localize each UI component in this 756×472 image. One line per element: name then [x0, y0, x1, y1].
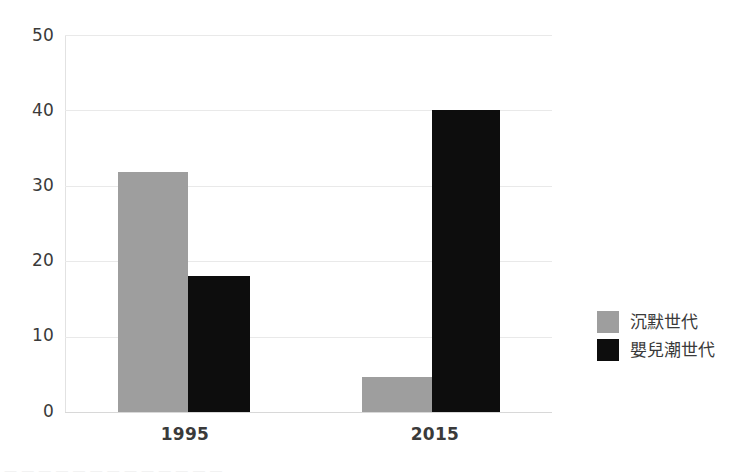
chart-legend: 沉默世代 嬰兒潮世代 [597, 308, 752, 364]
legend-swatch-silent-icon [597, 311, 619, 333]
y-tick-label-30: 30 [8, 177, 54, 194]
y-tick-label-40: 40 [8, 102, 54, 119]
y-tick-label-50: 50 [8, 27, 54, 44]
bar-1995-silent-generation [118, 172, 188, 412]
legend-item-silent-generation: 沉默世代 [597, 308, 752, 335]
x-tick-label-1995: 1995 [125, 424, 245, 444]
y-tick-label-20: 20 [8, 252, 54, 269]
y-tick-label-0: 0 [8, 403, 54, 420]
clipped-footer-label: — — — — — — — — — — — — — [0, 463, 756, 472]
gridline-baseline-0 [65, 412, 552, 413]
bar-1995-baby-boomer [188, 276, 250, 412]
legend-label-silent-generation: 沉默世代 [630, 311, 698, 333]
bar-2015-silent-generation [362, 377, 432, 412]
bar-2015-baby-boomer [432, 110, 500, 412]
x-tick-label-2015: 2015 [375, 424, 495, 444]
legend-swatch-baby-boomer-icon [597, 339, 619, 361]
legend-label-baby-boomer: 嬰兒潮世代 [630, 339, 715, 361]
clipped-footer-text: — — — — — — — — — — — — — [0, 463, 756, 472]
bar-chart-figure: 50 40 30 20 10 0 1995 2015 沉默世代 嬰兒潮世代 [0, 0, 756, 472]
y-tick-label-10: 10 [8, 327, 54, 344]
plot-area [65, 35, 552, 412]
gridline-50 [65, 35, 552, 36]
legend-item-baby-boomer: 嬰兒潮世代 [597, 336, 752, 363]
